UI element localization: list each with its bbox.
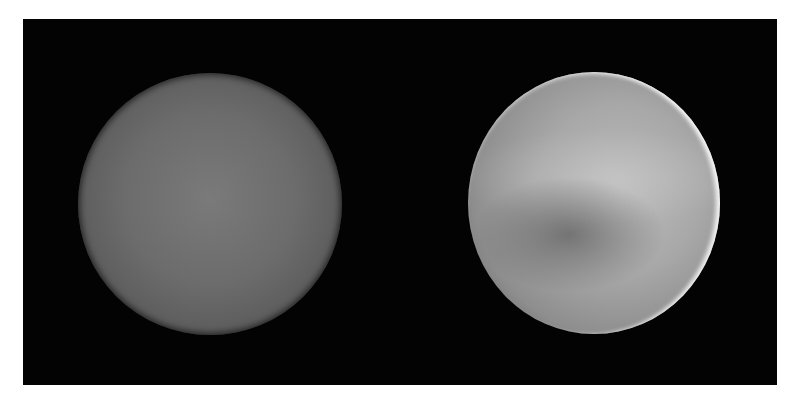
image-panel — [23, 19, 777, 385]
planet-left-disk — [78, 73, 342, 335]
planet-right-disk — [468, 72, 720, 334]
